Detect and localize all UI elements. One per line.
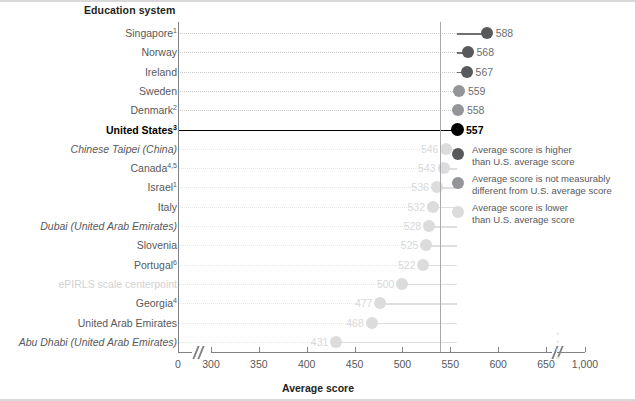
leader-guide	[178, 52, 457, 53]
x-axis-tick	[546, 347, 547, 352]
category-label: Singapore1	[125, 24, 177, 43]
category-footnote-marker: 4,5	[167, 162, 177, 169]
category-footnote-marker: 4	[173, 297, 177, 304]
value-label: 500	[366, 275, 394, 294]
category-label: Canada4,5	[130, 159, 177, 178]
value-label: 477	[344, 294, 372, 313]
value-label: 567	[476, 63, 494, 82]
table-row: Denmark2558	[0, 101, 635, 120]
leader-guide	[178, 245, 404, 246]
category-label: ePIRLS scale centerpoint	[59, 275, 177, 294]
category-label-text: Slovenia	[137, 239, 177, 251]
legend-label: Average score is not measurablydifferent…	[472, 173, 612, 196]
x-axis-tick-label: 450	[333, 358, 377, 370]
leader-guide	[178, 284, 380, 285]
leader-guide	[178, 72, 457, 73]
category-label-text: Israel	[147, 181, 173, 193]
data-point-dot	[461, 66, 473, 78]
category-label-text: ePIRLS scale centerpoint	[59, 278, 177, 290]
table-row: Slovenia525	[0, 236, 635, 255]
data-point-dot	[452, 104, 464, 116]
data-point-dot	[374, 297, 386, 309]
x-axis-tick-label: 350	[237, 358, 281, 370]
frame-bottom-border	[0, 399, 635, 401]
table-row: ePIRLS scale centerpoint500	[0, 275, 635, 294]
legend-label-line2: than U.S. average score	[472, 156, 574, 168]
category-label-text: Denmark	[130, 104, 173, 116]
category-label: Abu Dhabi (United Arab Emirates)	[19, 333, 177, 352]
x-axis-tick	[498, 347, 499, 352]
legend-label: Average score is lowerthan U.S. average …	[472, 202, 574, 225]
value-label: 559	[468, 82, 486, 101]
data-point-dot	[451, 123, 464, 136]
leader-guide	[178, 130, 457, 131]
category-label: Norway	[141, 43, 177, 62]
data-point-dot	[462, 46, 474, 58]
value-label: 557	[466, 121, 484, 140]
x-axis-tick-label: 550	[428, 358, 472, 370]
leader-guide	[178, 323, 350, 324]
legend-label: Average score is higherthan U.S. average…	[472, 144, 574, 167]
category-label: Israel1	[147, 178, 177, 197]
data-point-dot	[330, 336, 342, 348]
category-label: Denmark2	[130, 101, 177, 120]
table-row: Portugal6522	[0, 256, 635, 275]
table-row: Sweden559	[0, 82, 635, 101]
plot-left-axis-line	[178, 22, 179, 352]
legend-label-line2: different from U.S. average score	[472, 185, 612, 197]
data-point-dot	[396, 278, 408, 290]
x-axis-tick	[259, 347, 260, 352]
table-row: Ireland567	[0, 63, 635, 82]
leader-guide	[178, 207, 411, 208]
table-row: Georgia4477	[0, 294, 635, 313]
legend-swatch-dot	[452, 177, 464, 189]
value-stem	[402, 284, 457, 286]
value-label: 558	[467, 101, 485, 120]
category-footnote-marker: 3	[173, 123, 177, 130]
category-label-text: Canada	[130, 162, 167, 174]
legend-label-line1: Average score is lower	[472, 202, 574, 214]
category-label: Chinese Taipei (China)	[71, 140, 177, 159]
leader-guide	[178, 91, 457, 92]
x-axis-tick-label: 300	[189, 358, 233, 370]
table-row: United Arab Emirates468	[0, 314, 635, 333]
value-label: 532	[397, 198, 425, 217]
legend-swatch-dot	[452, 148, 464, 160]
leader-guide	[178, 168, 422, 169]
category-label-text: United States	[106, 124, 173, 136]
value-label: 543	[408, 159, 436, 178]
axis-line-segment	[211, 352, 552, 353]
data-point-dot	[366, 317, 378, 329]
x-axis-tick	[307, 347, 308, 352]
value-stem	[372, 323, 457, 325]
us-reference-line	[440, 22, 441, 352]
category-label: Italy	[158, 198, 177, 217]
table-row: Singapore1588	[0, 24, 635, 43]
value-label: 588	[496, 24, 514, 43]
leader-guide	[178, 226, 407, 227]
category-label: Portugal6	[134, 256, 177, 275]
leader-guide	[178, 33, 457, 34]
value-label: 528	[393, 217, 421, 236]
value-label: 468	[336, 314, 364, 333]
axis-line-segment	[557, 352, 585, 353]
category-label: United States3	[106, 121, 177, 140]
x-axis-tick-label: 1,000	[563, 358, 607, 370]
category-footnote-marker: 6	[173, 258, 177, 265]
x-axis-tick	[585, 347, 586, 352]
value-label: 525	[390, 236, 418, 255]
leader-guide	[178, 265, 401, 266]
value-label: 536	[401, 178, 429, 197]
table-row: Abu Dhabi (United Arab Emirates)431	[0, 333, 635, 352]
value-label: 568	[477, 43, 495, 62]
table-row: United States3557	[0, 121, 635, 140]
category-footnote-marker: 2	[173, 104, 177, 111]
x-axis-tick-label: 400	[285, 358, 329, 370]
table-row: Norway568	[0, 43, 635, 62]
data-point-dot	[423, 220, 435, 232]
frame-top-border	[0, 0, 635, 2]
value-label: 522	[387, 256, 415, 275]
category-footnote-marker: 1	[173, 181, 177, 188]
data-point-dot	[427, 201, 439, 213]
x-axis-tick	[211, 347, 212, 352]
